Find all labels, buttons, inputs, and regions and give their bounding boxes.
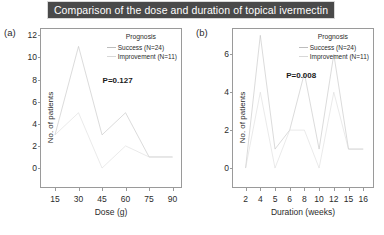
x-tick-mark (79, 187, 80, 191)
panel-b-legend-label-improvement: Improvement (N=11) (310, 52, 369, 61)
success-line-swatch (107, 47, 116, 48)
x-tick-label: 75 (144, 194, 153, 204)
panel-a-legend-item-success: Success (N=24) (107, 43, 177, 52)
x-tick-mark (334, 187, 335, 191)
y-tick-mark (230, 130, 233, 131)
chart-panel-b: (b) No. of patients 0246 2456810121516 D… (192, 24, 384, 229)
y-tick-label: 2 (32, 141, 37, 151)
panel-a-legend-label-success: Success (N=24) (118, 43, 164, 52)
y-tick-label: 8 (32, 75, 37, 85)
y-tick-mark (230, 92, 233, 93)
x-tick-mark (246, 187, 247, 191)
chart-panel-a: (a) No. of patients 024681012 1530456075… (0, 24, 192, 229)
x-tick-mark (319, 187, 320, 191)
panel-b-x-axis-title: Duration (weeks) (233, 207, 373, 217)
panel-b-plot-frame: No. of patients 0246 2456810121516 Durat… (232, 28, 374, 188)
series-line (55, 113, 173, 168)
panel-b-legend-item-success: Success (N=24) (299, 43, 369, 52)
series-line (55, 46, 173, 157)
y-tick-label: 4 (32, 119, 37, 129)
x-tick-label: 5 (273, 194, 278, 204)
x-tick-label: 90 (168, 194, 177, 204)
improvement-line-swatch (299, 56, 308, 57)
x-tick-label: 15 (50, 194, 59, 204)
figure-title: Comparison of the dose and duration of t… (54, 4, 328, 16)
panel-a-legend-label-improvement: Improvement (N=11) (118, 52, 177, 61)
panel-a-plot-frame: No. of patients 024681012 153045607590 D… (40, 28, 182, 188)
x-tick-label: 12 (329, 194, 338, 204)
panel-a-legend: Prognosis Success (N=24) Improvement (N=… (107, 32, 177, 62)
panel-b-legend: Prognosis Success (N=24) Improvement (N=… (299, 32, 369, 62)
y-tick-label: 6 (32, 97, 37, 107)
x-tick-label: 45 (97, 194, 106, 204)
x-tick-mark (349, 187, 350, 191)
x-tick-mark (173, 187, 174, 191)
panel-a-legend-item-improvement: Improvement (N=11) (107, 52, 177, 61)
x-tick-mark (275, 187, 276, 191)
y-tick-label: 4 (224, 87, 229, 97)
y-tick-mark (38, 80, 41, 81)
x-tick-label: 6 (287, 194, 292, 204)
x-tick-label: 4 (258, 194, 263, 204)
y-tick-label: 6 (224, 49, 229, 59)
success-line-swatch (299, 47, 308, 48)
y-tick-label: 12 (28, 30, 37, 40)
panel-b-pvalue: P=0.008 (286, 71, 316, 80)
panel-b-label: (b) (196, 27, 208, 38)
x-tick-label: 2 (243, 194, 248, 204)
y-tick-mark (38, 146, 41, 147)
y-tick-label: 2 (224, 125, 229, 135)
x-tick-label: 16 (358, 194, 367, 204)
x-tick-label: 15 (344, 194, 353, 204)
y-tick-label: 10 (28, 52, 37, 62)
x-tick-mark (290, 187, 291, 191)
y-tick-mark (230, 54, 233, 55)
panel-a-y-axis-title: No. of patients (46, 78, 55, 158)
improvement-line-swatch (107, 56, 116, 57)
panel-a-legend-title: Prognosis (107, 32, 177, 42)
x-tick-mark (304, 187, 305, 191)
x-tick-label: 30 (74, 194, 83, 204)
panel-b-legend-item-improvement: Improvement (N=11) (299, 52, 369, 61)
x-tick-label: 60 (121, 194, 130, 204)
x-tick-mark (55, 187, 56, 191)
panel-b-legend-label-success: Success (N=24) (310, 43, 356, 52)
x-tick-mark (260, 187, 261, 191)
figure-title-bar: Comparison of the dose and duration of t… (47, 1, 335, 19)
y-tick-mark (38, 57, 41, 58)
panel-b-legend-title: Prognosis (299, 32, 369, 42)
x-tick-label: 10 (314, 194, 323, 204)
x-tick-mark (126, 187, 127, 191)
panel-a-pvalue: P=0.127 (103, 76, 133, 85)
y-tick-mark (38, 124, 41, 125)
panel-b-y-axis-title: No. of patients (238, 78, 247, 158)
y-tick-label: 0 (32, 163, 37, 173)
y-tick-label: 0 (224, 163, 229, 173)
panel-a-label: (a) (4, 27, 16, 38)
x-tick-mark (363, 187, 364, 191)
y-tick-mark (38, 168, 41, 169)
panel-a-x-axis-title: Dose (g) (41, 207, 181, 217)
y-tick-mark (38, 35, 41, 36)
y-tick-mark (38, 102, 41, 103)
x-tick-mark (149, 187, 150, 191)
y-tick-mark (230, 168, 233, 169)
x-tick-label: 8 (302, 194, 307, 204)
x-tick-mark (102, 187, 103, 191)
